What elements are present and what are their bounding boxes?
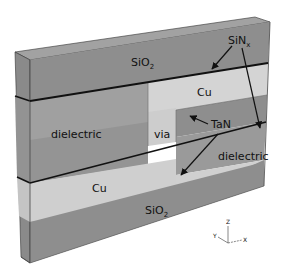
interconnect-diagram: SiO2 SiNx Cu dielectric via TaN dielectr… [0,0,290,277]
axis-label-y: Y [212,232,217,239]
left-side-dielectric [15,96,30,183]
label-tan: TaN [210,118,231,131]
axis-label-z: Z [226,218,230,225]
axis-label-x: X [243,236,247,243]
label-cu-bottom: Cu [92,182,107,195]
label-via: via [154,128,170,141]
label-dielectric-left: dielectric [51,128,102,141]
left-side-cu [17,177,30,222]
label-cu-top: Cu [197,86,212,99]
label-dielectric-right: dielectric [218,150,269,163]
x-axis-line [228,240,242,243]
y-axis-line [218,237,228,243]
axis-triad [218,226,242,243]
